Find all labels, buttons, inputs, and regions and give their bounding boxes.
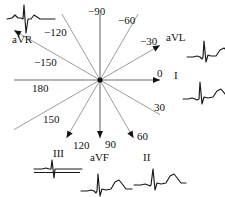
axis-ray-30 — [100, 80, 160, 115]
deg-0: 0 — [157, 68, 163, 79]
axis-arrowhead-120 — [67, 130, 73, 138]
lead-III-waveform — [33, 155, 83, 183]
lead-aVF-label: aVF — [90, 152, 109, 163]
deg-minus-60: −60 — [118, 15, 135, 26]
lead-I-trace-svg — [182, 76, 225, 105]
lead-aVR-waveform — [6, 2, 56, 38]
lead-aVL-label: aVL — [166, 32, 186, 43]
lead-I-label: I — [174, 70, 178, 81]
lead-II-waveform — [133, 162, 187, 195]
lead-aVR-trace-svg — [6, 2, 56, 34]
lead-aVF-trace-svg — [80, 168, 133, 197]
deg-minus-90: −90 — [88, 6, 105, 17]
lead-III-baseline — [34, 172, 80, 173]
deg-150: 150 — [43, 114, 60, 125]
deg-90: 90 — [105, 139, 116, 150]
lead-I-waveform — [182, 76, 225, 109]
lead-III-trace-svg — [33, 155, 83, 179]
lead-aVF-waveform — [80, 168, 133, 197]
axis-ray--30 — [100, 45, 160, 80]
lead-aVF-trace-path — [81, 174, 132, 196]
deg-120: 120 — [73, 140, 90, 151]
deg-minus-30: −30 — [140, 36, 157, 47]
axis-ray-60 — [100, 80, 133, 138]
deg-60: 60 — [137, 131, 148, 142]
lead-III-trace-path — [34, 160, 82, 178]
lead-aVL-trace-svg — [186, 34, 225, 63]
deg-minus-150: −150 — [34, 57, 57, 68]
lead-aVL-waveform — [186, 34, 225, 67]
lead-I-trace-path — [183, 82, 225, 104]
ecg-axis-diagram: −90−60−120−30−1500180301506012090 aVRaVL… — [0, 0, 225, 197]
axis-arrowhead-60 — [127, 130, 133, 138]
lead-aVL-trace-path — [187, 41, 225, 62]
lead-aVR-trace-path — [7, 5, 55, 33]
deg-30: 30 — [154, 102, 165, 113]
deg-180: 180 — [32, 83, 49, 94]
axis-ray-120 — [67, 80, 100, 138]
lead-II-trace-path — [134, 169, 186, 190]
axis-arrowhead-90 — [97, 131, 103, 138]
axis-origin-dot — [97, 77, 102, 82]
lead-II-trace-svg — [133, 162, 187, 191]
axis-ray--120 — [62, 14, 100, 80]
